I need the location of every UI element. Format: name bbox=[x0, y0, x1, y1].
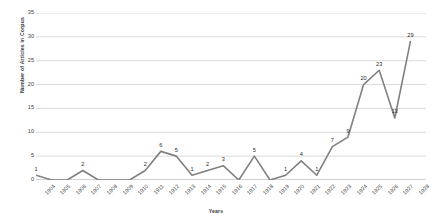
x-tick-label: 1920 bbox=[293, 183, 306, 196]
data-label: 2 bbox=[206, 162, 209, 168]
x-tick-label: 1913 bbox=[183, 183, 196, 196]
data-label: 13 bbox=[392, 110, 398, 116]
chart-canvas bbox=[36, 13, 426, 180]
x-tick-label: 1910 bbox=[137, 183, 150, 196]
x-tick-label: 1927 bbox=[402, 183, 415, 196]
x-tick-label: 1914 bbox=[199, 183, 212, 196]
data-label: 2 bbox=[81, 162, 84, 168]
x-tick-label: 1915 bbox=[215, 183, 228, 196]
x-tick-label: 1924 bbox=[355, 183, 368, 196]
data-label: 5 bbox=[175, 148, 178, 154]
data-label: 1 bbox=[34, 167, 37, 173]
x-tick-label: 1919 bbox=[277, 183, 290, 196]
x-tick-label: 1925 bbox=[371, 183, 384, 196]
gridlines bbox=[36, 13, 426, 180]
y-tick-label: 30 bbox=[16, 34, 34, 40]
data-label: 23 bbox=[376, 62, 382, 68]
x-tick-label: 1917 bbox=[246, 183, 259, 196]
x-tick-label: 1909 bbox=[121, 183, 134, 196]
x-tick-label: 1923 bbox=[339, 183, 352, 196]
y-tick-label: 5 bbox=[16, 153, 34, 159]
x-tick-label: 1905 bbox=[59, 183, 72, 196]
line-chart: Number of Articles in Corpus 05101520253… bbox=[0, 0, 432, 223]
x-tick-label: 1908 bbox=[105, 183, 118, 196]
data-label: 5 bbox=[253, 148, 256, 154]
data-label: 1 bbox=[315, 167, 318, 173]
x-tick-label: 1911 bbox=[152, 183, 164, 195]
x-tick-label: 1912 bbox=[168, 183, 181, 196]
data-label: 7 bbox=[331, 139, 334, 145]
data-label: 1 bbox=[190, 167, 193, 173]
plot-area: 1226512351417920231329 bbox=[36, 13, 426, 180]
x-tick-label: 1922 bbox=[324, 183, 337, 196]
x-axis-title: Years bbox=[0, 208, 432, 214]
x-axis-tick-labels: 1904190519061907190819091910191119121913… bbox=[36, 181, 426, 211]
data-label: 4 bbox=[300, 153, 303, 159]
data-label: 2 bbox=[144, 162, 147, 168]
data-label: 9 bbox=[346, 129, 349, 135]
x-tick-label: 1928 bbox=[417, 183, 430, 196]
data-label: 3 bbox=[222, 158, 225, 164]
y-tick-label: 35 bbox=[16, 10, 34, 16]
y-tick-label: 25 bbox=[16, 58, 34, 64]
y-tick-label: 10 bbox=[16, 129, 34, 135]
y-tick-label: 0 bbox=[16, 177, 34, 183]
data-label: 20 bbox=[360, 76, 366, 82]
x-tick-label: 1916 bbox=[230, 183, 243, 196]
x-tick-label: 1904 bbox=[43, 183, 56, 196]
x-tick-label: 1921 bbox=[308, 183, 321, 196]
x-tick-label: 1907 bbox=[90, 183, 103, 196]
x-tick-label: 1918 bbox=[261, 183, 274, 196]
y-tick-label: 15 bbox=[16, 105, 34, 111]
data-label: 29 bbox=[407, 34, 413, 40]
data-label: 6 bbox=[159, 143, 162, 149]
data-label: 1 bbox=[284, 167, 287, 173]
y-axis-tick-labels: 05101520253035 bbox=[16, 0, 34, 223]
x-tick-label: 1926 bbox=[386, 183, 399, 196]
x-tick-label: 1906 bbox=[74, 183, 87, 196]
y-tick-label: 20 bbox=[16, 82, 34, 88]
